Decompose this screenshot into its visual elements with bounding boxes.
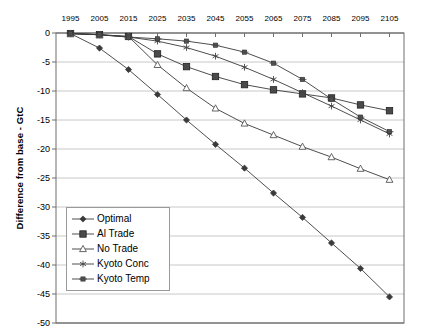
- y-tick-label: -35: [22, 231, 50, 241]
- legend-symbol-filled-diamond-icon: [71, 212, 95, 226]
- legend-label: Optimal: [95, 213, 131, 224]
- data-point-marker: [242, 64, 248, 71]
- y-tick-label: -10: [22, 86, 50, 96]
- series-line: [71, 34, 390, 111]
- data-point-marker: [329, 103, 335, 110]
- chart-container: Difference from base - GtC 0-5-10-15-20-…: [0, 0, 423, 336]
- legend-symbol-star-square-icon: [71, 272, 95, 286]
- chart-legend: Optimal Al Trade No Trade Kyoto Conc Kyo…: [66, 207, 170, 291]
- series-line: [71, 34, 390, 180]
- series-al-trade: [67, 30, 392, 114]
- data-point-marker: [154, 51, 160, 57]
- legend-label: Kyoto Conc: [95, 258, 149, 269]
- data-point-marker: [271, 76, 277, 83]
- plot-area: [0, 0, 423, 336]
- data-point-marker: [241, 120, 248, 126]
- y-tick-label: -45: [22, 289, 50, 299]
- legend-item-al-trade: Al Trade: [71, 226, 165, 241]
- data-point-marker: [212, 73, 218, 79]
- data-point-marker: [80, 245, 87, 251]
- legend-symbol-open-triangle-icon: [71, 242, 95, 256]
- y-tick-label: -20: [22, 144, 50, 154]
- y-tick-label: -30: [22, 202, 50, 212]
- data-point-marker: [154, 37, 162, 41]
- y-tick-label: -15: [22, 115, 50, 125]
- data-point-marker: [183, 39, 191, 43]
- data-point-marker: [96, 45, 102, 51]
- y-tick-label: -40: [22, 260, 50, 270]
- legend-item-kyoto-conc: Kyoto Conc: [71, 256, 165, 271]
- legend-symbol-filled-square-icon: [71, 227, 95, 241]
- data-point-marker: [270, 87, 276, 93]
- series-no-trade: [67, 30, 393, 182]
- legend-item-no-trade: No Trade: [71, 241, 165, 256]
- y-tick-label: -50: [22, 318, 50, 328]
- series-kyoto-temp: [67, 31, 394, 133]
- series-kyoto-conc: [68, 30, 393, 137]
- data-point-marker: [80, 215, 86, 221]
- data-point-marker: [183, 85, 190, 91]
- y-tick-label: 0: [22, 28, 50, 38]
- series-line: [71, 34, 390, 132]
- y-tick-label: -5: [22, 57, 50, 67]
- legend-symbol-asterisk-icon: [71, 257, 95, 271]
- legend-label: Al Trade: [95, 228, 134, 239]
- legend-item-kyoto-temp: Kyoto Temp: [71, 271, 165, 286]
- data-point-marker: [79, 276, 87, 280]
- data-point-marker: [241, 81, 247, 87]
- data-point-marker: [183, 63, 189, 69]
- legend-item-optimal: Optimal: [71, 211, 165, 226]
- x-tick-label: 2105: [370, 14, 410, 23]
- legend-label: No Trade: [95, 243, 138, 254]
- data-point-marker: [80, 230, 86, 236]
- data-point-marker: [357, 102, 363, 108]
- data-point-marker: [212, 43, 220, 47]
- y-tick-label: -25: [22, 173, 50, 183]
- data-point-marker: [213, 53, 219, 60]
- data-point-marker: [212, 105, 219, 111]
- legend-label: Kyoto Temp: [95, 273, 150, 284]
- data-point-marker: [386, 108, 392, 114]
